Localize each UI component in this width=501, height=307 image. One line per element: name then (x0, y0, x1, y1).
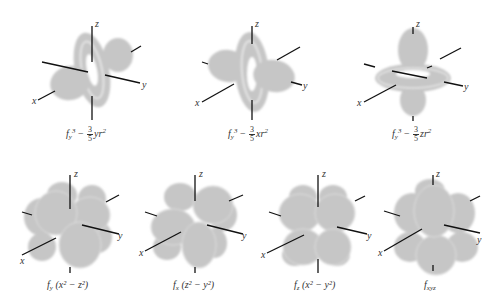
svg-text:z: z (435, 168, 440, 179)
svg-text:y: y (476, 234, 482, 245)
orbital-caption: fy3 − 35yr2 (66, 126, 106, 143)
svg-text:x: x (19, 255, 25, 266)
svg-text:x: x (31, 95, 37, 106)
svg-text:y: y (302, 80, 308, 91)
orbital-caption: fy3 − 35xr2 (228, 126, 268, 143)
svg-text:z: z (198, 168, 203, 179)
orbital-panel-fx-z2-y2: z y x fx (z² − y²) (125, 155, 245, 307)
orbital-caption: fx (z² − y²) (173, 279, 214, 291)
orbital-panel-fy3-xr2: z y x fy3 − 35xr2 (170, 0, 330, 150)
svg-text:x: x (260, 249, 266, 260)
x-axis (202, 84, 234, 102)
orbital-caption: fz (x² − y²) (294, 279, 335, 291)
svg-text:x: x (356, 97, 362, 108)
orbital-panel-fy-x2-z2: z y x fy (x² − z²) (0, 155, 125, 307)
svg-text:y: y (117, 230, 123, 241)
orbital-caption: fy (x² − z²) (47, 279, 88, 291)
orbital-panel-fy3-zr2: z y x fy3 − 35zr2 (330, 0, 501, 150)
svg-text:y: y (463, 81, 469, 92)
orbital-caption: fxyz (424, 279, 436, 291)
svg-text:z: z (254, 18, 259, 29)
orbital-panel-fz-x2-y2: z y x fz (x² − y²) (245, 155, 370, 307)
svg-text:x: x (377, 247, 383, 258)
svg-text:z: z (321, 168, 326, 179)
orbital-panel-fy3-yr2: z y x fy3 − 35yr2 (0, 0, 170, 150)
svg-text:z: z (415, 18, 420, 29)
svg-text:x: x (194, 97, 200, 108)
svg-text:z: z (94, 18, 99, 29)
orbital-caption: fy3 − 35zr2 (392, 126, 431, 143)
orbital-panel-fxyz: z y x fxyz (370, 155, 501, 307)
x-axis (364, 85, 396, 102)
svg-text:z: z (73, 168, 78, 179)
svg-text:y: y (141, 79, 147, 90)
svg-text:x: x (138, 247, 144, 258)
